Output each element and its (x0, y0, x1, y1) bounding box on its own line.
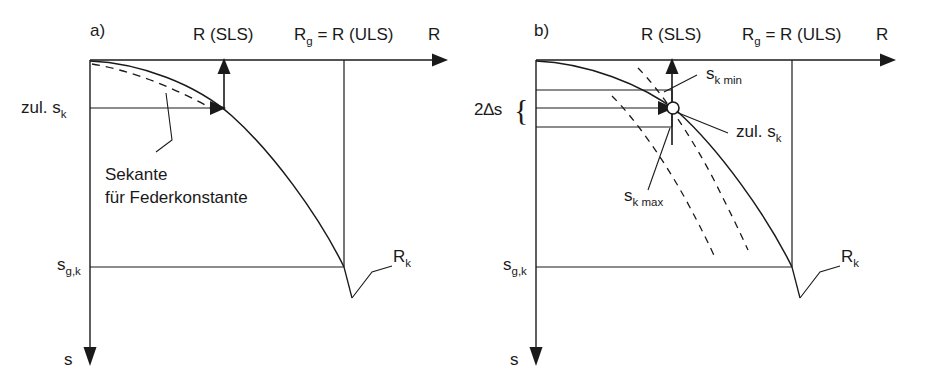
panel-a-uls-label-rest: = R (ULS) (313, 25, 394, 44)
panel-b-uls-label: Rg = R (ULS) (742, 25, 841, 47)
panel-b: b) R (SLS) Rg = R (ULS) R 2∆s { sg,k s s… (474, 21, 896, 369)
panel-a-secant-dashed-curve (92, 64, 214, 110)
panel-b-sk-max-main: s (624, 186, 633, 205)
panel-a-sekante-note-line2: für Federkonstante (105, 188, 248, 207)
panel-b-uls-label-rest: = R (ULS) (761, 25, 842, 44)
diagram-svg: a) R (SLS) Rg = R (ULS) R zul. sk sg,k s… (0, 0, 926, 389)
panel-b-sgk-sub: g,k (512, 265, 528, 277)
panel-a-sekante-leader (156, 93, 172, 152)
panel-b-brace-glyph: { (514, 93, 528, 126)
panel-a-rk-leader (352, 266, 392, 298)
panel-b-sk-min-label: sk min (706, 64, 742, 86)
panel-a-uls-label-main: R (294, 25, 306, 44)
panel-b-sk-min-main: s (706, 64, 715, 83)
panel-b-zul-sk-sub: k (776, 132, 782, 144)
panel-b-two-delta-s-label: 2∆s (474, 100, 502, 119)
panel-a: a) R (SLS) Rg = R (ULS) R zul. sk sg,k s… (21, 21, 448, 369)
panel-a-sekante-note-line1: Sekante (105, 165, 167, 184)
panel-b-sk-max-label: sk max (624, 186, 663, 208)
panel-b-sk-max-leader (648, 128, 670, 190)
panel-b-sk-min-leader (664, 75, 697, 92)
panel-a-rk-sub: k (405, 257, 411, 269)
panel-a-curve-tail (344, 267, 352, 298)
panel-b-dashed-bound-lower (612, 96, 716, 260)
panel-a-resistance-curve (90, 61, 344, 267)
panel-a-uls-label: Rg = R (ULS) (294, 25, 393, 47)
panel-b-sgk-tick-label: sg,k (503, 255, 527, 277)
panel-b-y-axis-arrowhead (530, 347, 543, 366)
panel-a-rk-main: R (393, 247, 405, 266)
panel-b-rk-sub: k (853, 257, 859, 269)
panel-b-r-axis-label: R (876, 25, 888, 44)
panel-b-rk-leader (800, 266, 840, 298)
panel-b-zul-sk-leader (676, 112, 728, 133)
panel-a-y-axis-arrowhead (84, 347, 97, 366)
panel-b-x-axis-arrowhead (880, 54, 896, 67)
panel-a-x-axis-arrowhead (432, 54, 448, 67)
panel-a-r-axis-label: R (428, 25, 440, 44)
panel-a-sgk-main: s (57, 255, 66, 274)
panel-b-id-label: b) (534, 21, 549, 40)
panel-a-rk-label: Rk (393, 247, 411, 269)
figure-canvas: a) R (SLS) Rg = R (ULS) R zul. sk sg,k s… (0, 0, 926, 389)
panel-a-zul-sk-tick-label: zul. sk (21, 98, 67, 120)
panel-a-sls-label: R (SLS) (193, 25, 253, 44)
panel-a-zul-sk-main: zul. s (21, 98, 61, 117)
panel-b-rk-label: Rk (841, 247, 859, 269)
panel-a-sgk-tick-label: sg,k (57, 255, 81, 277)
panel-a-sgk-sub: g,k (66, 265, 82, 277)
panel-b-sk-min-sub: k min (715, 74, 742, 86)
panel-b-uls-label-main: R (742, 25, 754, 44)
panel-a-zul-sk-sub: k (61, 108, 67, 120)
panel-b-zul-sk-main: zul. s (736, 122, 776, 141)
panel-b-sk-max-sub: k max (633, 196, 664, 208)
panel-b-curve-tail (792, 267, 800, 298)
panel-a-s-axis-label: s (64, 350, 73, 369)
panel-b-dashed-bound-upper (638, 68, 748, 250)
panel-a-id-label: a) (90, 21, 105, 40)
panel-b-sls-label: R (SLS) (641, 25, 701, 44)
panel-b-s-axis-label: s (510, 350, 519, 369)
panel-b-zul-sk-label: zul. sk (736, 122, 782, 144)
panel-b-sgk-main: s (503, 255, 512, 274)
panel-b-rk-main: R (841, 247, 853, 266)
